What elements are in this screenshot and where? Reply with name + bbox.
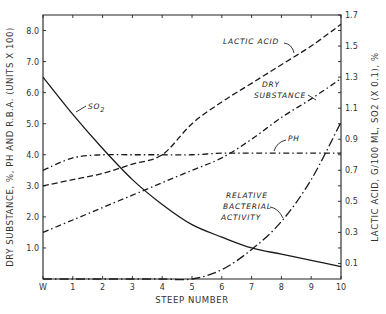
y-axis-label-left: DRY SUBSTANCE, %, PH AND R.B.A. (UNITS X… [5, 27, 15, 267]
x-tick-label: 3 [130, 283, 135, 292]
y-tick-label-left: 1.0 [26, 244, 39, 253]
y-tick-label-right: 1.7 [345, 11, 358, 20]
y-tick-label-right: 0.1 [345, 259, 358, 268]
y-tick-label-left: 3.0 [26, 182, 39, 191]
y-tick-label-right: 0.3 [345, 228, 358, 237]
label-rba-3: ACTIVITY [220, 213, 262, 222]
x-axis-label: STEEP NUMBER [155, 295, 228, 305]
label-dry-substance-1: DRY [262, 80, 281, 89]
plot-frame [43, 15, 341, 279]
x-tick-label: 4 [160, 283, 165, 292]
x-tick-label: 5 [189, 283, 194, 292]
x-tick-label: 7 [249, 283, 254, 292]
y-tick-label-right: 0.7 [345, 166, 358, 175]
axis-ticks: W123456789101.02.03.04.05.06.07.08.00.10… [26, 11, 357, 292]
pointer-so2 [76, 106, 86, 112]
x-tick-label: 8 [279, 283, 284, 292]
label-rba-1: RELATIVE [226, 191, 268, 200]
y-tick-label-right: 1.3 [345, 73, 358, 82]
curve-relative-bacterial-activity [43, 122, 341, 280]
pointer-dry [308, 95, 316, 100]
curves [43, 24, 341, 279]
x-tick-label: 2 [100, 283, 105, 292]
plot-border [43, 15, 341, 279]
label-rba-2: BACTERIAL [223, 202, 272, 211]
y-tick-label-left: 2.0 [26, 213, 39, 222]
x-tick-label: 1 [70, 283, 75, 292]
y-tick-label-right: 1.1 [345, 104, 358, 113]
y-tick-label-left: 4.0 [26, 151, 39, 160]
x-tick-label: 6 [219, 283, 224, 292]
x-tick-label: 9 [309, 283, 314, 292]
chart: W123456789101.02.03.04.05.06.07.08.00.10… [0, 0, 386, 314]
label-so2: SO2 [88, 102, 105, 114]
y-tick-label-right: 1.5 [345, 42, 358, 51]
label-dry-substance-2: SUBSTANCE [254, 91, 306, 100]
label-lactic-acid: LACTIC ACID [223, 37, 279, 46]
y-tick-label-right: 0.5 [345, 197, 358, 206]
y-tick-label-right: 0.9 [345, 135, 358, 144]
y-tick-label-left: 7.0 [26, 58, 39, 67]
y-tick-label-left: 6.0 [26, 89, 39, 98]
x-tick-label: W [39, 283, 47, 292]
pointer-rba [270, 207, 283, 218]
pointer-ph [274, 140, 286, 151]
y-axis-label-right: LACTIC ACID, G/100 ML, SO2 (X 0.1), % [370, 52, 380, 241]
y-tick-label-left: 8.0 [26, 27, 39, 36]
x-tick-label: 10 [336, 283, 346, 292]
curve-ph [43, 153, 341, 170]
pointer-lactic [284, 43, 294, 53]
y-tick-label-left: 5.0 [26, 120, 39, 129]
label-ph: PH [288, 134, 300, 143]
